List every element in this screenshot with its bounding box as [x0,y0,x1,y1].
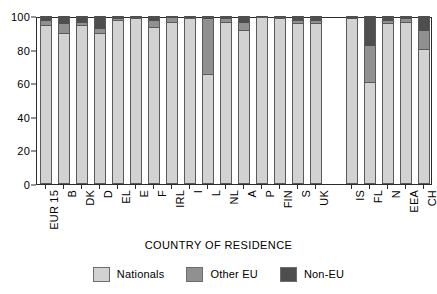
bar-segment-non-eu [185,16,194,18]
bar-segment-other-eu [167,18,176,23]
bar-segment-other-eu [77,23,86,26]
x-axis-tick-mark [189,185,190,189]
bar-segment-other-eu [113,19,122,21]
x-axis-tick-mark [387,185,388,189]
bar-segment-non-eu [383,16,392,21]
y-axis-tick-label: 100 [11,12,30,23]
x-axis-label-eur-15: EUR 15 [49,190,60,230]
bar-segment-non-eu [149,16,158,21]
x-axis-label-i: I [193,190,204,193]
legend-item-non-eu: Non-EU [280,267,344,282]
bar-segment-nationals [365,83,374,184]
legend-swatch-icon [280,267,297,282]
bar-segment-other-eu [401,19,410,22]
legend-label: Non-EU [304,269,344,280]
x-axis-label-el: EL [121,190,132,204]
bar-n [382,16,393,184]
y-axis-tick-label: 80 [17,45,30,56]
x-axis-tick-mark [135,185,136,189]
x-axis-tick-mark [45,185,46,189]
legend-label: Other EU [210,269,257,280]
bar-eea [400,16,411,184]
x-axis-tick-mark [369,185,370,189]
bar-segment-non-eu [401,16,410,19]
stacked-bar-chart-figure: 020406080100 EUR 15BDKDELEFIRLILNLAPFINS… [0,0,437,294]
bar-segment-nationals [41,26,50,184]
x-axis-tick-mark [207,185,208,189]
x-axis-tick-mark [279,185,280,189]
x-axis-tick-mark [225,185,226,189]
bar-segment-non-eu [257,16,266,17]
bar-segment-non-eu [293,16,302,21]
x-axis-tick-mark [117,185,118,189]
bar-segment-non-eu [131,16,140,18]
x-axis-tick-mark [315,185,316,189]
x-axis-tick-mark [63,185,64,189]
bar-a [238,16,249,184]
x-axis-label-nl: NL [229,190,240,204]
bar-segment-other-eu [293,21,302,24]
x-axis-label-a: A [247,190,258,198]
bar-segment-other-eu [203,19,212,74]
bar-segment-non-eu [77,16,86,23]
bar-segment-nationals [275,19,284,184]
bar-segment-nationals [131,19,140,184]
bar-segment-nationals [311,24,320,184]
x-axis-tick-mark [81,185,82,189]
bar-ch [418,16,429,184]
bar-e [130,16,141,184]
bar-eur-15 [40,16,51,184]
bar-s [292,16,303,184]
chart-legend: NationalsOther EUNon-EU [0,262,437,286]
x-axis-tick-mark [297,185,298,189]
x-axis-label-irl: IRL [175,190,186,208]
y-axis-tick-label: 0 [24,180,30,191]
bar-irl [166,16,177,184]
legend-label: Nationals [117,269,165,280]
bar-segment-non-eu [419,16,428,31]
bar-segment-other-eu [59,24,68,34]
bar-segment-non-eu [221,16,230,19]
bar-segment-other-eu [239,23,248,31]
x-axis-label-ch: CH [427,190,437,206]
x-axis-label-l: L [211,190,222,196]
bar-segment-nationals [239,31,248,184]
bar-dk [76,16,87,184]
bar-segment-nationals [59,34,68,184]
legend-swatch-icon [93,267,110,282]
x-axis-title: COUNTRY OF RESIDENCE [0,239,437,251]
bar-segment-non-eu [167,16,176,18]
x-axis-tick-mark [261,185,262,189]
bar-segment-nationals [293,24,302,184]
legend-swatch-icon [186,267,203,282]
x-axis-tick-mark [171,185,172,189]
bar-segment-other-eu [221,19,230,22]
bar-segment-non-eu [365,16,374,46]
bar-segment-other-eu [185,18,194,20]
bar-i [184,16,195,184]
x-axis-label-b: B [67,190,78,198]
x-axis-tick-mark [243,185,244,189]
bar-segment-other-eu [131,18,140,20]
x-axis-label-p: P [265,190,276,198]
bar-segment-nationals [167,23,176,184]
bar-segment-nationals [113,21,122,184]
x-axis-label-dk: DK [85,190,96,206]
bar-segment-nationals [203,75,212,184]
bar-segment-nationals [185,19,194,184]
bar-segment-other-eu [149,21,158,28]
x-axis-label-e: E [139,190,150,198]
bar-segment-nationals [95,34,104,184]
bar-segment-non-eu [311,16,320,21]
legend-item-nationals: Nationals [93,267,165,282]
y-axis: 020406080100 [0,17,36,185]
bar-nl [220,16,231,184]
y-axis-tick-label: 60 [17,79,30,90]
bar-segment-other-eu [383,21,392,24]
x-axis-tick-mark [153,185,154,189]
bar-segment-nationals [149,28,158,184]
bar-segment-nationals [347,19,356,184]
bar-segment-non-eu [203,16,212,19]
bar-el [112,16,123,184]
x-axis-label-fin: FIN [283,190,294,208]
